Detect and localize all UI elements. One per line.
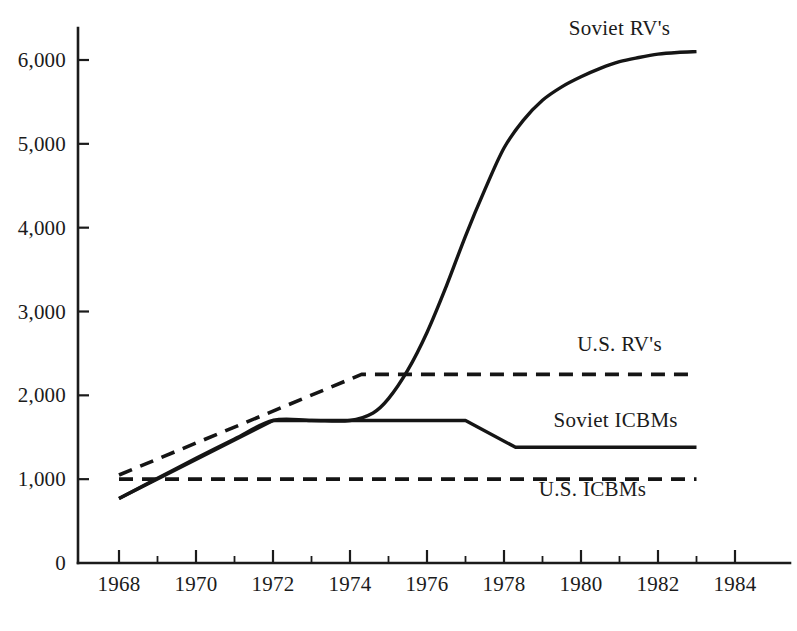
y-tick-label: 0: [55, 551, 66, 575]
x-tick-label: 1984: [714, 572, 757, 596]
chart-container: 01,0002,0003,0004,0005,0006,000 19681970…: [0, 0, 797, 631]
axes-group: [78, 28, 790, 563]
y-tick-labels: 01,0002,0003,0004,0005,0006,000: [18, 48, 66, 575]
series-label-soviet-rv-s: Soviet RV's: [569, 16, 671, 40]
x-tick-labels: 196819701972197419761978198019821984: [98, 572, 757, 596]
y-tick-label: 6,000: [18, 48, 66, 72]
line-chart: 01,0002,0003,0004,0005,0006,000 19681970…: [0, 0, 797, 631]
x-tick-label: 1976: [406, 572, 449, 596]
x-tick-label: 1972: [252, 572, 295, 596]
y-tick-label: 1,000: [18, 467, 66, 491]
series-label-soviet-icbms: Soviet ICBMs: [553, 408, 677, 432]
y-tick-label: 3,000: [18, 300, 66, 324]
x-tick-label: 1978: [483, 572, 526, 596]
x-tick-label: 1974: [329, 572, 372, 596]
y-tick-label: 2,000: [18, 383, 66, 407]
x-tick-label: 1980: [560, 572, 603, 596]
x-tick-label: 1968: [98, 572, 141, 596]
x-tick-label: 1970: [175, 572, 218, 596]
y-tick-label: 4,000: [18, 216, 66, 240]
x-tick-label: 1982: [637, 572, 680, 596]
y-tick-label: 5,000: [18, 132, 66, 156]
series-label-u-s-rv-s: U.S. RV's: [577, 332, 662, 356]
series-label-u-s-icbms: U.S. ICBMs: [539, 477, 646, 501]
